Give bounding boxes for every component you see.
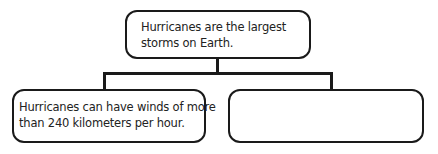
- main-idea-box: Hurricanes are the largest storms on Ear…: [125, 10, 311, 59]
- detail-1-text-line-1: Hurricanes can have winds of more: [19, 99, 204, 115]
- connector-bar: [103, 72, 333, 75]
- detail-1-text-line-2: than 240 kilometers per hour.: [19, 115, 204, 131]
- connector-branch-right: [330, 72, 333, 90]
- detail-box-2-empty[interactable]: [228, 89, 424, 143]
- main-idea-text-line-1: Hurricanes are the largest: [141, 19, 309, 35]
- connector-branch-left: [103, 72, 106, 90]
- detail-box-1: Hurricanes can have winds of more than 2…: [12, 89, 206, 143]
- main-idea-text-line-2: storms on Earth.: [141, 35, 309, 51]
